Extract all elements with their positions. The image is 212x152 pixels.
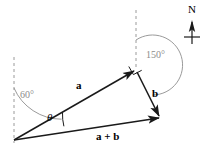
vector-a-label: a [76,80,82,91]
angle-60-label: 60° [20,90,34,100]
resultant-label: a + b [96,131,119,142]
vector-b-label: b [152,88,158,99]
vector-diagram: a b a + b θ 60° 150° N [0,0,212,152]
angle-arc-theta [62,112,63,126]
angle-150-label: 150° [146,50,165,60]
angle-arc-150 [136,35,183,95]
theta-angle-label: θ [47,112,52,123]
vector-a-plus-b-arrow [14,118,159,140]
compass-north-label: N [188,4,196,15]
